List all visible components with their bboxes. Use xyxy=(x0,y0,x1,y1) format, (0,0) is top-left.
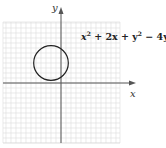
y-axis-arrow-icon xyxy=(59,7,64,14)
x-axis-label: x xyxy=(130,88,136,99)
x-axis-arrow-icon xyxy=(129,81,136,86)
coordinate-plane xyxy=(0,0,166,148)
eq-mid: + 2x + y xyxy=(91,31,138,42)
y-axis-label: y xyxy=(52,2,58,13)
equation-label: x2 + 2x + y2 − 4y + 2 = 0 xyxy=(81,30,166,42)
eq-end: − 4y + 2 = 0 xyxy=(142,31,166,42)
